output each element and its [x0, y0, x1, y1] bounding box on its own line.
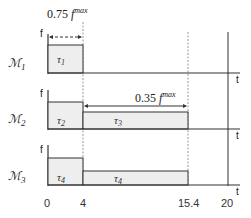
- machine-3-label: ℳ3: [8, 169, 26, 185]
- tick-15-4: 15.4: [178, 197, 199, 209]
- task-tau3-block: [83, 112, 188, 129]
- tick-4: 4: [80, 197, 86, 209]
- mid-annotation: 0.35 fmax: [135, 90, 176, 105]
- top-annotation: 0.75 fmax: [47, 6, 88, 21]
- machine-1-label: ℳ1: [8, 56, 26, 72]
- task-tau4-block-a: [48, 158, 83, 185]
- y-axis-label-2: f: [40, 88, 43, 99]
- machine-2-label: ℳ2: [8, 112, 26, 128]
- x-axis-label-1: t: [236, 74, 239, 85]
- y-axis-label-1: f: [40, 28, 43, 39]
- x-axis-label-3: t: [236, 186, 239, 197]
- tick-20: 20: [221, 197, 233, 209]
- machine-1-row: [48, 34, 240, 74]
- y-axis-label-3: f: [40, 144, 43, 155]
- task-tau2-block: [48, 102, 83, 129]
- schedule-diagram: 0.75 fmax 0.35 fmax f f f t t t ℳ1 ℳ2 ℳ3…: [0, 0, 251, 218]
- task-tau4-block-b: [83, 171, 188, 185]
- tick-0: 0: [44, 197, 50, 209]
- machine-3-row: [48, 145, 240, 186]
- task-tau1-block: [48, 45, 83, 73]
- x-axis-label-2: t: [236, 130, 239, 141]
